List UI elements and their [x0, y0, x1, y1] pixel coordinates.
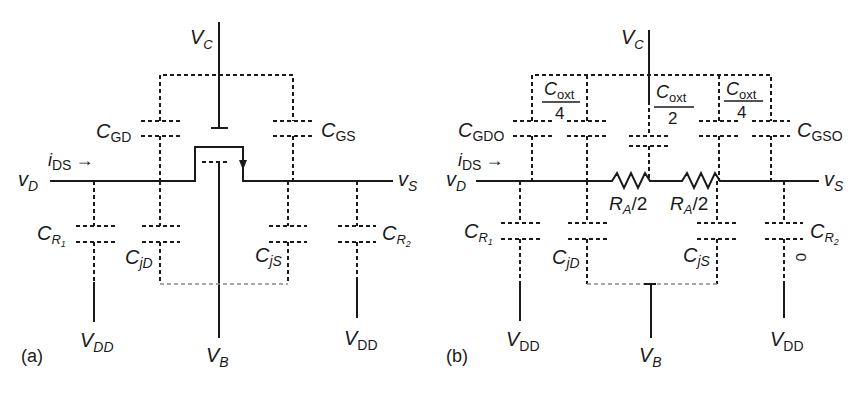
label-vb-b: VB — [639, 344, 662, 370]
svg-text:Coxt: Coxt — [656, 82, 687, 105]
label-vdd-right: VDD — [344, 327, 378, 353]
svg-text:Coxt: Coxt — [544, 79, 575, 102]
svg-text:4: 4 — [555, 104, 564, 123]
label-vs-b: vS — [824, 168, 844, 194]
label-vdd-left-b: VDD — [506, 328, 540, 354]
channel-resistors — [476, 173, 819, 188]
label-cjd-b: CjD — [552, 246, 580, 271]
label-vc-b: VC — [621, 26, 644, 52]
channel-wire — [50, 147, 393, 181]
label-vdd-right-b: VDD — [770, 328, 804, 354]
panel-b-tag: (b) — [446, 346, 468, 366]
fraction-coxt-mid: Coxt 2 — [654, 82, 694, 128]
label-ra-left: RA/2 — [609, 193, 647, 217]
label-cjs: CjS — [255, 244, 283, 269]
label-vd: vD — [18, 168, 38, 194]
label-cjd: CjD — [125, 246, 153, 271]
current-arrow-icon — [239, 160, 247, 170]
label-vb: VB — [206, 344, 229, 370]
label-cgd: CGD — [96, 120, 131, 145]
label-cgs: CGS — [321, 119, 356, 144]
label-vc: VC — [190, 26, 213, 52]
label-vs: vS — [398, 168, 418, 194]
label-ids-b: iDS→ — [458, 150, 503, 173]
mosfet-capacitance-diagram: VC CGD CGS iDS→ vD vS CR1 CjD CjS CR2 VD… — [0, 0, 861, 395]
label-cr2-b: CR2 — [810, 220, 839, 247]
label-zero: 0 — [793, 253, 810, 261]
panel-a: VC CGD CGS iDS→ vD vS CR1 CjD CjS CR2 VD… — [18, 22, 418, 370]
svg-text:2: 2 — [668, 109, 677, 128]
label-cr1-b: CR1 — [464, 220, 493, 247]
svg-text:4: 4 — [737, 103, 746, 122]
fraction-coxt-left: Coxt 4 — [542, 79, 580, 123]
label-cr2: CR2 — [382, 222, 411, 249]
panel-b: VC Coxt 4 Coxt 2 Coxt 4 CGDO CGSO iDS→ v… — [446, 26, 844, 370]
label-vdd-left: VDD — [80, 329, 114, 355]
panel-a-tag: (a) — [21, 346, 43, 366]
label-ids: iDS→ — [48, 150, 93, 173]
label-cgso: CGSO — [797, 119, 843, 144]
label-cjs-b: CjS — [683, 244, 711, 269]
label-cr1: CR1 — [37, 222, 66, 249]
label-cgdo: CGDO — [458, 119, 504, 144]
fraction-coxt-right: Coxt 4 — [724, 79, 763, 122]
label-ra-right: RA/2 — [670, 193, 708, 217]
svg-text:Coxt: Coxt — [726, 79, 757, 102]
gate-overlap-frame — [160, 75, 293, 121]
